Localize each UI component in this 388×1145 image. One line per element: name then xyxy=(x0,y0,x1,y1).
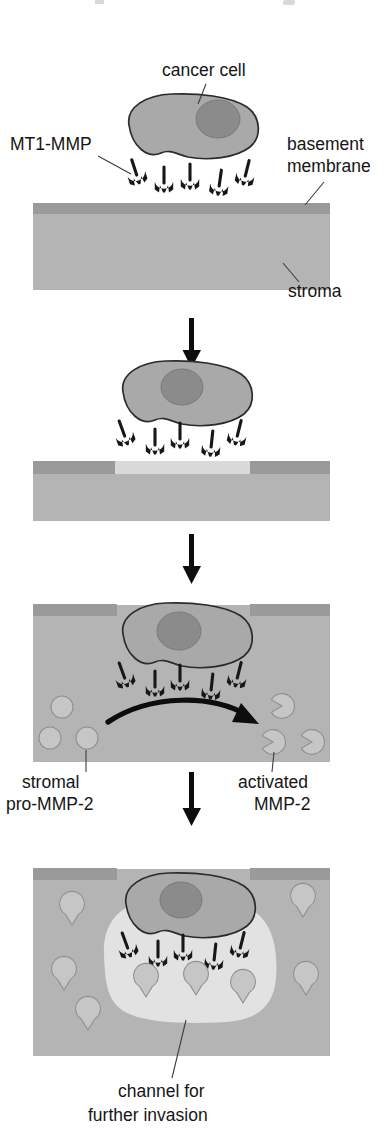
label-activated-mmp2-line1: activated xyxy=(238,772,308,792)
panel-1-nucleus xyxy=(196,100,240,138)
panel-2 xyxy=(33,361,330,521)
leader-basement-membrane xyxy=(305,182,324,205)
arrow-panel2-to-panel3 xyxy=(183,534,202,584)
panel-4-basement-membrane-right xyxy=(250,868,330,880)
label-basement-membrane-line1: basement xyxy=(287,134,364,154)
panel-4-nucleus xyxy=(160,882,202,918)
panel-3-nucleus xyxy=(157,612,201,650)
label-stroma: stroma xyxy=(288,281,342,301)
panel-4-cancer-cell xyxy=(126,873,256,938)
label-mt1-mmp: MT1-MMP xyxy=(10,134,92,154)
label-stromal-pro-mmp2-line2: pro-MMP-2 xyxy=(6,794,94,814)
panel-4: channel for further invasion xyxy=(33,868,330,1125)
leader-mt1-mmp xyxy=(98,156,131,174)
label-channel-line2: further invasion xyxy=(88,1105,208,1125)
panel-3-basement-membrane-left xyxy=(33,604,117,616)
arrow-panel3-to-panel4 xyxy=(183,772,202,826)
panel-2-nucleus xyxy=(161,369,203,405)
panel-1-receptors xyxy=(123,157,258,197)
label-stromal-pro-mmp2-line1: stromal xyxy=(22,772,79,792)
invasion-figure: cancer cell MT1-MMP basement membrane st… xyxy=(0,0,388,1145)
panel-3-cancer-cell xyxy=(123,603,253,668)
panel-2-basement-membrane-right xyxy=(250,461,330,474)
pro-mmp2 xyxy=(76,727,98,749)
label-activated-mmp2-line2: MMP-2 xyxy=(254,794,310,814)
panel-1-cancer-cell xyxy=(129,94,259,159)
label-channel-line1: channel for xyxy=(118,1081,205,1101)
panel-1-basement-membrane xyxy=(33,203,330,214)
label-cancer-cell: cancer cell xyxy=(162,60,246,80)
top-cropped-text xyxy=(95,0,295,5)
panel-3: stromal pro-MMP-2 activated MMP-2 xyxy=(6,603,330,814)
panel-3-basement-membrane-right xyxy=(250,604,330,616)
panel-4-basement-membrane-left xyxy=(33,868,117,880)
panel-2-basement-membrane-left xyxy=(33,461,115,474)
panel-2-cancer-cell xyxy=(123,361,253,426)
panel-2-stroma xyxy=(33,473,330,521)
panel-1: cancer cell MT1-MMP basement membrane st… xyxy=(10,60,371,301)
label-basement-membrane-line2: membrane xyxy=(287,156,371,176)
pro-mmp2 xyxy=(51,696,73,718)
panel-2-receptors xyxy=(111,418,250,458)
panel-2-basement-membrane-degraded xyxy=(115,461,250,474)
pro-mmp2 xyxy=(39,727,61,749)
panel-1-stroma xyxy=(33,212,330,290)
